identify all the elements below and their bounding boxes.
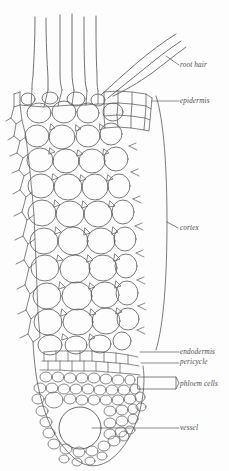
root-hair-group <box>32 14 186 98</box>
endodermis-row <box>40 351 140 375</box>
label-endodermis: endodermis <box>180 349 215 356</box>
label-vessel: vessel <box>180 425 198 432</box>
label-phloem-cells: phloem cells <box>180 381 218 388</box>
root-section-figure: root hair epidermis cortex endodermis pe… <box>0 0 229 471</box>
label-root-hair: root hair <box>180 62 207 69</box>
cortex-brace <box>156 96 178 350</box>
cortex-edge-spikes <box>129 143 146 334</box>
label-pericycle: pericycle <box>180 359 208 366</box>
vascular-cells <box>32 372 146 466</box>
epidermis-right <box>104 91 152 131</box>
epidermis-top <box>14 89 104 107</box>
cortex-cells <box>21 92 139 355</box>
root-section-drawing <box>0 0 229 471</box>
label-epidermis: epidermis <box>180 98 210 105</box>
epidermis-left <box>6 105 40 342</box>
label-cortex: cortex <box>180 225 199 232</box>
